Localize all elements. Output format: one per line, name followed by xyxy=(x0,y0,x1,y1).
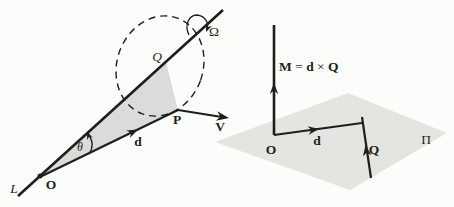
moment-Q-symbol: Q xyxy=(328,59,339,74)
vector-V-label: V xyxy=(215,119,225,134)
moment-M-symbol: M xyxy=(279,59,292,74)
right-diagram: M = d × Q O d Q Π xyxy=(215,25,447,190)
point-P-label: P xyxy=(173,112,181,127)
theta-angle-label: θ xyxy=(77,140,83,154)
origin-O-label: O xyxy=(46,177,57,192)
equals-sign: = xyxy=(292,59,306,74)
vector-d-label: d xyxy=(134,134,142,149)
plane-pi-label: Π xyxy=(421,132,431,147)
vector-Q-label-right: Q xyxy=(369,142,380,157)
line-L-label: L xyxy=(9,181,18,196)
vector-V-line xyxy=(178,110,225,118)
cross-product-sign: × xyxy=(314,59,328,74)
axis-line-L xyxy=(18,10,223,196)
omega-label: Ω xyxy=(209,24,219,39)
point-O-dot xyxy=(38,174,43,179)
left-diagram: L O P Q d V θ Ω xyxy=(9,3,230,196)
origin-O-label-right: O xyxy=(266,142,277,157)
vector-d-label-right: d xyxy=(313,133,321,148)
moment-equation-label: M = d × Q xyxy=(279,59,339,74)
point-Q-label: Q xyxy=(152,49,162,64)
figure-page: L O P Q d V θ Ω M = d × Q xyxy=(0,0,454,207)
plane-pi-surface xyxy=(215,93,447,190)
vector-diagram-figure: L O P Q d V θ Ω M = d × Q xyxy=(0,0,454,207)
